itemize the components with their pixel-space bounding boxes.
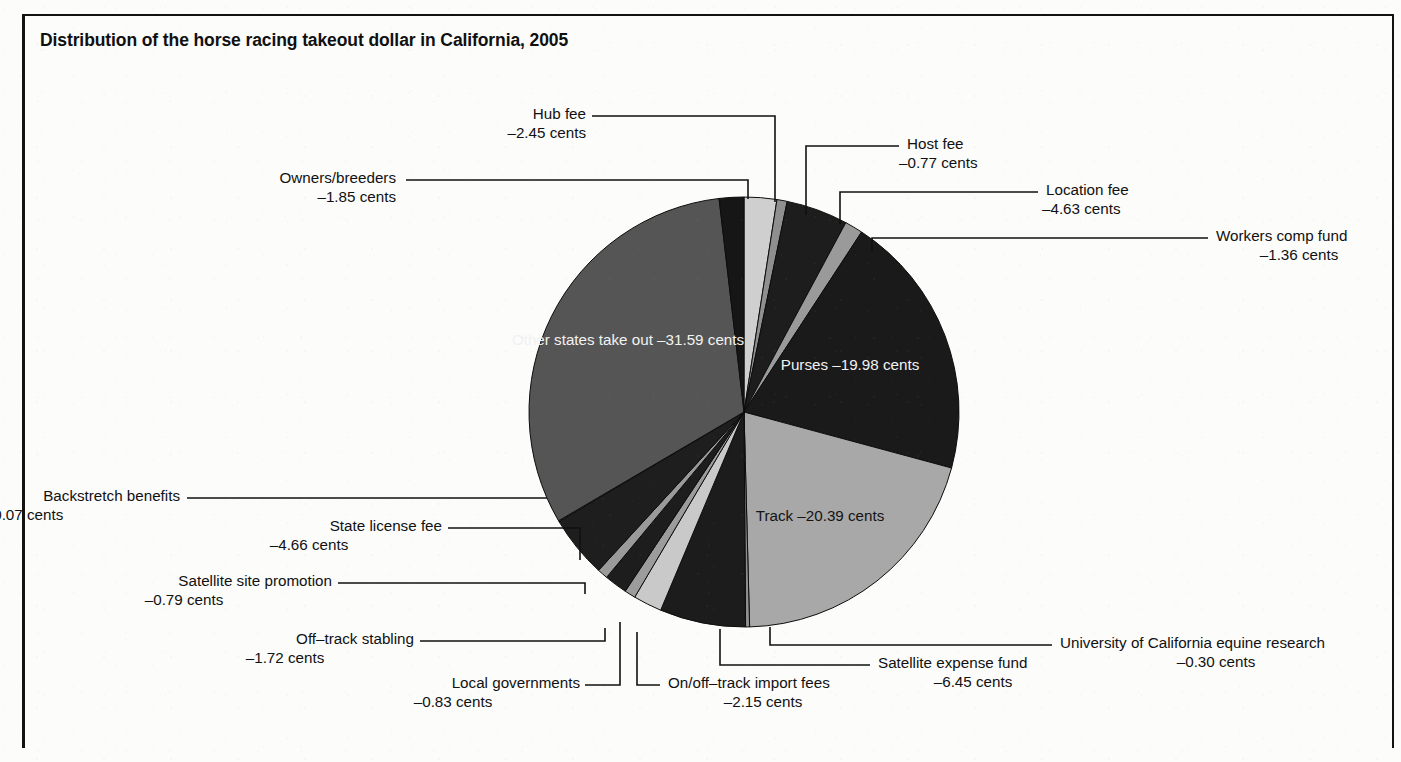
callout-backstretch-benefits-value: –0.07 cents (0, 505, 174, 524)
callout-hub-fee: Hub fee –2.45 cents (300, 104, 586, 143)
callout-hub-fee-value: –2.45 cents (300, 123, 586, 142)
callout-satellite-site-promotion-name: Satellite site promotion (178, 572, 332, 589)
leader-line-import-fees (637, 632, 660, 685)
callout-import-fees-name: On/off–track import fees (668, 674, 830, 691)
figure-panel: Distribution of the horse racing takeout… (0, 0, 1401, 762)
leader-line-host-fee (806, 146, 899, 215)
leader-line-local-governments (585, 622, 620, 685)
callout-state-license-fee-value: –4.66 cents (180, 535, 438, 554)
callout-location-fee-name: Location fee (1046, 181, 1129, 198)
callout-satellite-site-promotion-value: –0.79 cents (40, 590, 328, 609)
leader-line-satellite-site-promotion (338, 583, 585, 594)
leader-line-satellite-expense-fund (720, 629, 870, 665)
callout-owners-breeders: Owners/breeders –1.85 cents (110, 168, 396, 207)
leader-line-workers-comp-fund (872, 238, 1208, 252)
callout-workers-comp-fund-value: –1.36 cents (1216, 245, 1382, 264)
slice-label-other-states-name: Other states take out (512, 331, 653, 348)
callout-location-fee-value: –4.63 cents (1042, 199, 1276, 218)
callout-host-fee: Host fee –0.77 cents (907, 134, 1127, 173)
callout-satellite-site-promotion: Satellite site promotion –0.79 cents (40, 571, 332, 610)
slice-label-track-value: –20.39 cents (797, 507, 884, 524)
slice-label-track: Track –20.39 cents (740, 506, 900, 526)
callout-uc-equine-research-value: –0.30 cents (1060, 652, 1372, 671)
callout-off-track-stabling-name: Off–track stabling (296, 630, 414, 647)
pie-slices-group (529, 197, 959, 627)
slice-label-purses-value: –19.98 cents (832, 356, 919, 373)
callout-state-license-fee: State license fee –4.66 cents (180, 516, 442, 555)
slice-label-other-states-value: –31.59 cents (657, 331, 744, 348)
callout-hub-fee-name: Hub fee (533, 105, 586, 122)
callout-off-track-stabling: Off–track stabling –1.72 cents (160, 629, 414, 668)
leader-line-off-track-stabling (420, 628, 605, 641)
callout-satellite-expense-fund-name: Satellite expense fund (878, 654, 1027, 671)
slice-label-track-name: Track (756, 507, 793, 524)
leader-line-uc-equine-research (770, 627, 1052, 645)
callout-local-governments-name: Local governments (452, 674, 580, 691)
callout-owners-breeders-value: –1.85 cents (110, 187, 396, 206)
callout-backstretch-benefits-name: Backstretch benefits (43, 487, 180, 504)
leader-line-location-fee (840, 192, 1038, 224)
callout-backstretch-benefits: Backstretch benefits –0.07 cents (0, 486, 180, 525)
callout-host-fee-value: –0.77 cents (899, 153, 1127, 172)
slice-label-purses: Purses –19.98 cents (770, 355, 930, 375)
leader-line-state-license-fee (448, 528, 580, 560)
slice-label-purses-name: Purses (781, 356, 828, 373)
callout-workers-comp-fund: Workers comp fund –1.36 cents (1216, 226, 1396, 265)
callout-off-track-stabling-value: –1.72 cents (160, 648, 410, 667)
callout-location-fee: Location fee –4.63 cents (1046, 180, 1276, 219)
callout-host-fee-name: Host fee (907, 135, 964, 152)
callout-uc-equine-research-name: University of California equine research (1060, 634, 1325, 651)
callout-local-governments-value: –0.83 cents (330, 692, 576, 711)
callout-satellite-expense-fund-value: –6.45 cents (878, 672, 1068, 691)
callout-uc-equine-research: University of California equine research… (1060, 633, 1380, 672)
callout-owners-breeders-name: Owners/breeders (280, 169, 397, 186)
callout-import-fees-value: –2.15 cents (668, 692, 858, 711)
callout-workers-comp-fund-name: Workers comp fund (1216, 227, 1347, 244)
leader-line-owners-breeders (406, 180, 748, 199)
slice-label-other-states: Other states take out –31.59 cents (508, 330, 748, 350)
callout-local-governments: Local governments –0.83 cents (330, 673, 580, 712)
callout-state-license-fee-name: State license fee (330, 517, 442, 534)
